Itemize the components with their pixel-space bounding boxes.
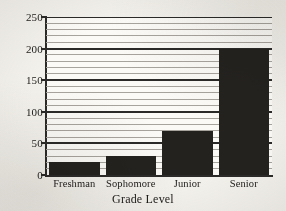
y-tick-mark <box>41 16 45 18</box>
x-tick-label-sophomore: Sophomore <box>103 178 160 191</box>
y-tick-mark <box>41 174 45 176</box>
bar <box>106 156 157 175</box>
bar <box>219 49 270 175</box>
y-tick-label: 150 <box>3 75 43 86</box>
y-tick-label: 100 <box>3 106 43 117</box>
x-tick-label-freshman: Freshman <box>46 178 103 191</box>
y-tick-mark <box>41 79 45 81</box>
y-tick-mark <box>41 48 45 50</box>
y-tick-mark <box>41 111 45 113</box>
y-axis-tick-labels: 050100150200250 <box>0 0 43 211</box>
x-axis-line <box>45 175 273 177</box>
x-tick-label-junior: Junior <box>159 178 216 191</box>
x-tick-label-senior: Senior <box>216 178 273 191</box>
y-tick-label: 200 <box>3 43 43 54</box>
bar <box>49 162 100 175</box>
x-axis-title: Grade Level <box>0 192 286 207</box>
y-tick-label: 50 <box>3 138 43 149</box>
y-tick-label: 250 <box>3 12 43 23</box>
bar <box>162 131 213 175</box>
plot-area <box>46 17 272 175</box>
y-tick-mark <box>41 142 45 144</box>
bar-chart-figure: 050100150200250 FreshmanSophomoreJuniorS… <box>0 0 286 211</box>
y-tick-label: 0 <box>3 170 43 181</box>
bars-group <box>46 17 272 175</box>
